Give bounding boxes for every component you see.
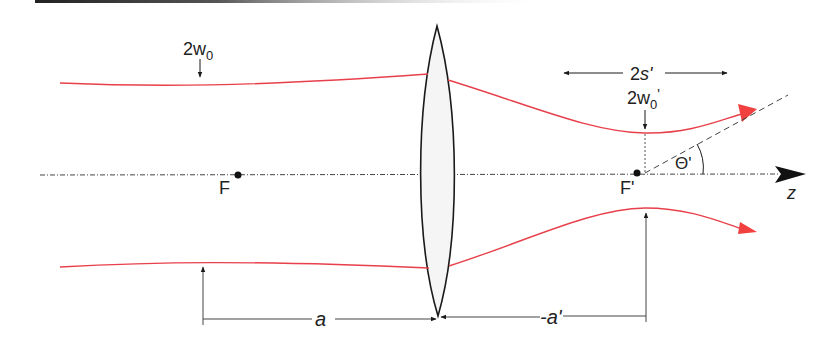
beam-upper-input [60, 74, 428, 85]
divergence-angle-arc [697, 144, 703, 174]
divergence-angle-label: Θ' [675, 154, 691, 173]
optical-axis [40, 174, 778, 175]
rayleigh-range-label: 2s' [630, 64, 653, 84]
top-edge-bar [35, 0, 555, 3]
focal-label-back: F' [620, 178, 634, 198]
beam-upper-output [448, 80, 745, 133]
beam-asymptote [645, 95, 788, 173]
beam-lower-input [60, 263, 429, 268]
beam-lower-arrowhead-icon [738, 222, 757, 234]
axis-arrowhead-icon [775, 166, 806, 183]
focal-label-front: F [219, 178, 230, 198]
input-waist-label: 2w0 [183, 39, 213, 63]
focal-point-back [634, 170, 641, 177]
gaussian-beam-lens-diagram: z F F' 2w0 2s' 2w0' Θ' a -a' [0, 0, 839, 343]
beam-lower-output [449, 208, 745, 266]
axis-label-z: z [786, 183, 796, 203]
image-distance-label: -a' [540, 306, 563, 328]
focal-point-front [235, 172, 242, 179]
output-waist-label: 2w0' [627, 86, 660, 112]
thin-lens [421, 26, 455, 316]
object-distance-label: a [315, 308, 326, 330]
